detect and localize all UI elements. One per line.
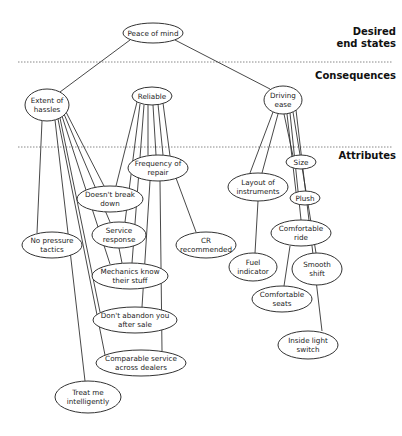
node-label: across dealers — [115, 363, 167, 372]
level-label-line: Attributes — [339, 150, 396, 162]
edge-layout-to-fuel — [255, 201, 258, 253]
node-comfortable-ride: Comfortableride — [271, 220, 331, 246]
node-label: after sale — [118, 320, 152, 329]
node-label: Peace of mind — [128, 29, 179, 38]
node-label: Size — [294, 158, 309, 167]
node-label: intelligently — [67, 397, 110, 406]
node-driving: Drivingease — [264, 86, 302, 114]
node-cr: CRrecommended — [176, 232, 236, 258]
node-plush: Plush — [290, 191, 320, 205]
node-service-response: Serviceresponse — [92, 222, 146, 248]
node-label: ease — [275, 100, 293, 109]
node-doesnt-break: Doesn't breakdown — [77, 186, 143, 212]
node-label: shift — [309, 269, 325, 278]
node-label: Plush — [295, 194, 314, 203]
node-label: hassles — [34, 105, 61, 114]
level-label-line: end states — [336, 38, 396, 50]
node-treat-me: Treat meintelligently — [55, 381, 121, 413]
node-label: seats — [272, 299, 291, 308]
node-label: recommended — [180, 245, 232, 254]
node-reliable: Reliable — [132, 87, 172, 105]
edge-hassles-to-no_pressure — [37, 121, 42, 233]
node-size: Size — [286, 155, 316, 169]
node-label: response — [103, 235, 136, 244]
node-label: down — [100, 199, 119, 208]
nodes: Peace of mindExtent ofhasslesReliableDri… — [22, 23, 342, 413]
node-hassles: Extent ofhassles — [25, 89, 69, 121]
node-no-pressure: No pressuretactics — [22, 232, 82, 258]
edge-driving-to-size — [284, 114, 293, 156]
node-label: Reliable — [138, 92, 167, 101]
node-mechanics: Mechanics knowtheir stuff — [92, 263, 168, 289]
edge-peace-to-driving — [175, 40, 270, 89]
node-fuel: Fuelindicator — [229, 253, 277, 281]
edge-comfortable_ride-to-comfortable_seats — [284, 246, 290, 286]
edge-driving-to-layout — [250, 112, 273, 173]
node-label: indicator — [237, 267, 269, 276]
edge-service_response-to-mechanics — [119, 248, 122, 263]
level-label-desired-end-states: Desired end states — [336, 26, 396, 50]
level-label-attributes: Attributes — [339, 150, 396, 162]
level-label-line: Consequences — [315, 70, 396, 82]
node-peace: Peace of mind — [123, 23, 183, 43]
edge-peace-to-hassles — [60, 40, 130, 92]
edge-driving-to-layout — [262, 114, 278, 173]
node-comparable: Comparable serviceacross dealers — [96, 350, 186, 376]
node-dont-abandon: Don't abandon youafter sale — [93, 307, 177, 333]
edge-reliable-to-frequency — [163, 103, 170, 156]
node-label: switch — [297, 345, 320, 354]
node-label: their stuff — [112, 276, 148, 285]
node-frequency: Frequency ofrepair — [128, 155, 188, 181]
node-comfortable-seats: Comfortableseats — [252, 286, 312, 312]
level-label-consequences: Consequences — [315, 70, 396, 82]
node-label: repair — [147, 168, 168, 177]
node-label: ride — [294, 233, 309, 242]
node-label: tactics — [40, 245, 64, 254]
means-end-chain-diagram: Peace of mindExtent ofhasslesReliableDri… — [0, 0, 402, 436]
node-layout: Layout ofinstruments — [228, 173, 288, 201]
node-smooth-shift: Smoothshift — [292, 253, 342, 285]
node-label: instruments — [236, 187, 279, 196]
level-label-line: Desired — [336, 26, 396, 38]
edge-frequency-to-cr — [176, 178, 196, 232]
node-inside-light: Inside lightswitch — [278, 331, 338, 359]
